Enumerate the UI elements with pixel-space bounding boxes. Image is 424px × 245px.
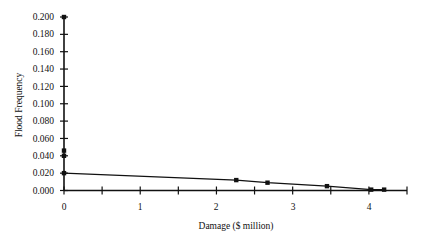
ytick-label-0.200: 0.200 [10,12,54,22]
xtick-label-3: 3 [283,202,303,212]
data-point-marker [234,178,238,182]
data-point-marker [325,184,329,188]
xtick-label-2: 2 [206,202,226,212]
xtick-label-1: 1 [130,202,150,212]
xtick-label-4: 4 [359,202,379,212]
data-point-marker [62,15,66,19]
damage-frequency-chart: 0.200 0.180 0.160 0.140 0.120 0.100 0.08… [0,0,424,245]
data-point-marker [265,180,269,184]
ytick-label-0.040: 0.040 [10,151,54,161]
data-point-marker [62,154,66,158]
series-line [64,173,384,189]
y-axis-label: Flood Frequency [14,60,24,150]
ytick-label-0.020: 0.020 [10,168,54,178]
data-point-marker [62,148,66,152]
ytick-label-0.180: 0.180 [10,29,54,39]
data-point-marker [62,171,66,175]
ytick-label-0.000: 0.000 [10,186,54,196]
xtick-label-0: 0 [54,202,74,212]
x-axis-label: Damage ($ million) [186,221,286,231]
data-point-marker [369,187,373,191]
ytick-label-0.160: 0.160 [10,47,54,57]
data-point-marker [382,187,386,191]
